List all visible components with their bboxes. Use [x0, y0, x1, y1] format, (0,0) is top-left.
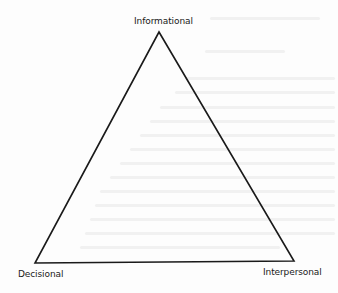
- triangle-shape: [35, 32, 294, 263]
- vertex-label-interpersonal: Interpersonal: [263, 267, 322, 277]
- diagram-page: Informational Decisional Interpersonal: [0, 0, 338, 293]
- vertex-label-informational: Informational: [134, 16, 193, 26]
- triangle-diagram: [0, 0, 338, 293]
- vertex-label-decisional: Decisional: [18, 269, 63, 279]
